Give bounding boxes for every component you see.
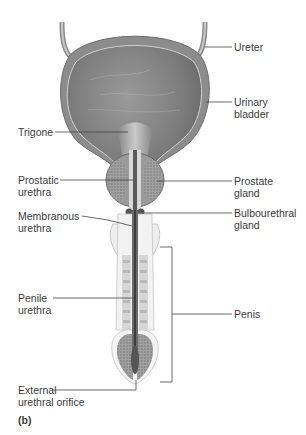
- label-trigone: Trigone: [18, 126, 53, 138]
- label-bulbourethral-gland: Bulbourethral gland: [234, 207, 296, 231]
- label-prostate-gland: Prostate gland: [234, 175, 273, 199]
- label-penile-urethra: Penile urethra: [18, 292, 51, 316]
- label-membranous-urethra: Membranous urethra: [18, 210, 79, 234]
- panel-label: (b): [18, 414, 31, 426]
- label-penis: Penis: [234, 308, 260, 320]
- label-prostatic-urethra: Prostatic urethra: [18, 174, 59, 198]
- label-urinary-bladder: Urinary bladder: [234, 96, 269, 120]
- label-ureter: Ureter: [234, 41, 263, 53]
- label-external-urethral-orifice: External urethral orifice: [18, 384, 85, 408]
